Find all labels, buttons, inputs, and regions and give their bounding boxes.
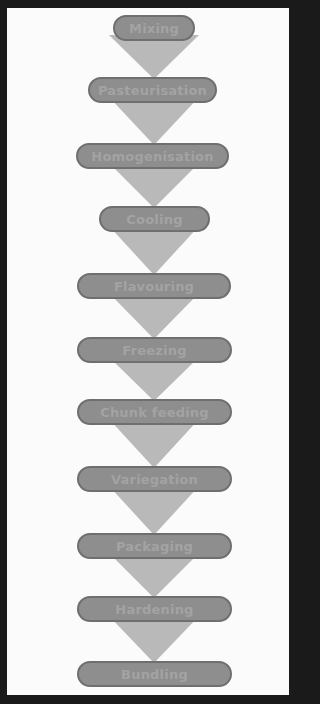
flow-arrow-icon [109,293,199,339]
flow-arrow-icon [109,226,199,275]
flow-arrow-icon [109,616,199,663]
process-step-pasteurisation: Pasteurisation [88,77,217,103]
process-step-chunk-feeding: Chunk feeding [77,399,232,425]
flow-arrow-icon [109,163,199,208]
process-step-freezing: Freezing [77,337,232,363]
process-step-flavouring: Flavouring [77,273,231,299]
process-step-homogenisation: Homogenisation [76,143,229,169]
flow-arrow-icon [109,35,199,79]
process-step-mixing: Mixing [113,15,195,41]
flow-arrow-icon [109,97,199,145]
flow-arrow-icon [109,553,199,598]
process-step-packaging: Packaging [77,533,232,559]
flow-arrow-icon [109,419,199,468]
flow-arrow-icon [109,486,199,535]
process-step-hardening: Hardening [77,596,232,622]
flow-arrow-icon [109,357,199,401]
process-step-variegation: Variegation [77,466,232,492]
process-step-cooling: Cooling [99,206,210,232]
process-step-bundling: Bundling [77,661,232,687]
